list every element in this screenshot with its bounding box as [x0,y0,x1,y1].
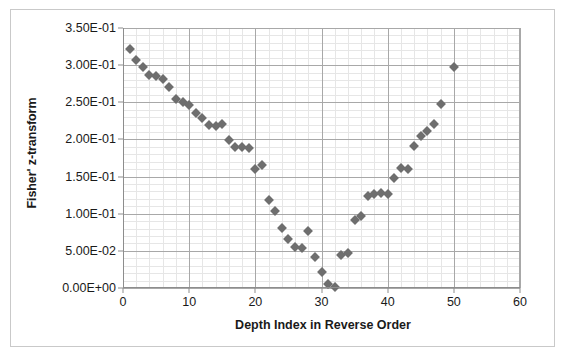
x-axis-tick-mark [123,288,124,293]
gridline-major-vertical [322,28,323,288]
gridline-minor-vertical [282,28,283,288]
gridline-minor-vertical [229,28,230,288]
gridline-minor-vertical [427,28,428,288]
x-axis-tick-label: 0 [120,295,127,309]
data-point [383,189,393,199]
gridline-minor-vertical [176,28,177,288]
x-axis-tick-label: 10 [182,295,196,309]
gridline-minor-vertical [374,28,375,288]
chart-figure: Fisher' z-transform Depth Index in Rever… [0,0,565,358]
gridline-minor-vertical [441,28,442,288]
x-axis-tick-mark [453,288,454,293]
data-point [409,141,419,151]
gridline-minor-vertical [414,28,415,288]
data-point [277,223,287,233]
gridline-major-horizontal [123,177,520,178]
y-axis-tick-label: 0.00E+00 [62,281,116,295]
data-point [125,44,135,54]
x-axis-tick-mark [255,288,256,293]
gridline-major-horizontal [123,139,520,140]
data-point [436,99,446,109]
y-axis-tick-label: 3.00E-01 [65,58,116,72]
gridline-minor-vertical [480,28,481,288]
x-axis-tick-label: 60 [513,295,527,309]
gridline-minor-vertical [308,28,309,288]
x-axis-tick-label: 50 [447,295,461,309]
data-point [310,252,320,262]
gridline-minor-vertical [361,28,362,288]
x-axis-title: Depth Index in Reverse Order [123,318,523,332]
gridline-major-vertical [189,28,190,288]
data-point [264,195,274,205]
data-point [164,82,174,92]
data-point [389,173,399,183]
gridline-minor-vertical [467,28,468,288]
gridline-minor-vertical [494,28,495,288]
x-axis-tick-mark [321,288,322,293]
data-point [449,62,459,72]
x-axis-tick-label: 30 [315,295,329,309]
x-axis-tick-label: 20 [248,295,262,309]
gridline-minor-vertical [216,28,217,288]
gridline-major-horizontal [123,214,520,215]
y-axis-tick-label: 2.50E-01 [65,95,116,109]
y-axis-tick-label: 1.00E-01 [65,207,116,221]
gridline-minor-vertical [269,28,270,288]
gridline-minor-vertical [163,28,164,288]
data-point [317,267,327,277]
data-point [303,226,313,236]
y-axis-tick-label: 5.00E-02 [65,244,116,258]
plot-area: 0.00E+005.00E-021.00E-011.50E-012.00E-01… [123,28,520,288]
axis-left-line [123,28,124,288]
gridline-minor-vertical [507,28,508,288]
x-axis-tick-mark [189,288,190,293]
gridline-minor-vertical [335,28,336,288]
gridline-major-vertical [520,28,521,288]
data-point [429,119,439,129]
data-point [244,143,254,153]
y-axis-title: Fisher' z-transform [25,53,39,253]
x-axis-tick-mark [387,288,388,293]
y-axis-tick-label: 1.50E-01 [65,170,116,184]
axis-bottom-line [123,287,520,288]
y-axis-tick-label: 3.50E-01 [65,21,116,35]
x-axis-tick-label: 40 [381,295,395,309]
gridline-minor-vertical [401,28,402,288]
axis-right-line [519,28,520,288]
gridline-major-vertical [388,28,389,288]
axis-top-line [123,28,520,29]
gridline-minor-vertical [149,28,150,288]
gridline-major-horizontal [123,65,520,66]
gridline-major-vertical [255,28,256,288]
x-axis-tick-mark [520,288,521,293]
gridline-major-horizontal [123,251,520,252]
gridline-minor-vertical [242,28,243,288]
gridline-minor-vertical [202,28,203,288]
y-axis-tick-label: 2.00E-01 [65,132,116,146]
data-point [343,248,353,258]
